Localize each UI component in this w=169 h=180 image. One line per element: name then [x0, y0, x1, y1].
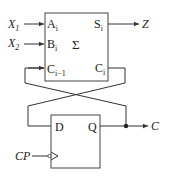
pin-q-label: Q [88, 120, 97, 134]
output-z-label: Z [142, 17, 149, 31]
serial-adder-diagram: X1 Ai X2 Bi Σ Ci−1 Si Z Ci D Q C CP [0, 0, 169, 180]
output-c-label: C [151, 119, 160, 133]
input-x1-label: X1 [7, 17, 19, 33]
junction-dot [124, 124, 128, 128]
clock-bubble-icon [48, 154, 51, 157]
input-x2-label: X2 [7, 36, 19, 52]
pin-d-label: D [55, 120, 64, 134]
sigma-symbol: Σ [72, 37, 80, 52]
clock-cp-label: CP [15, 149, 31, 163]
